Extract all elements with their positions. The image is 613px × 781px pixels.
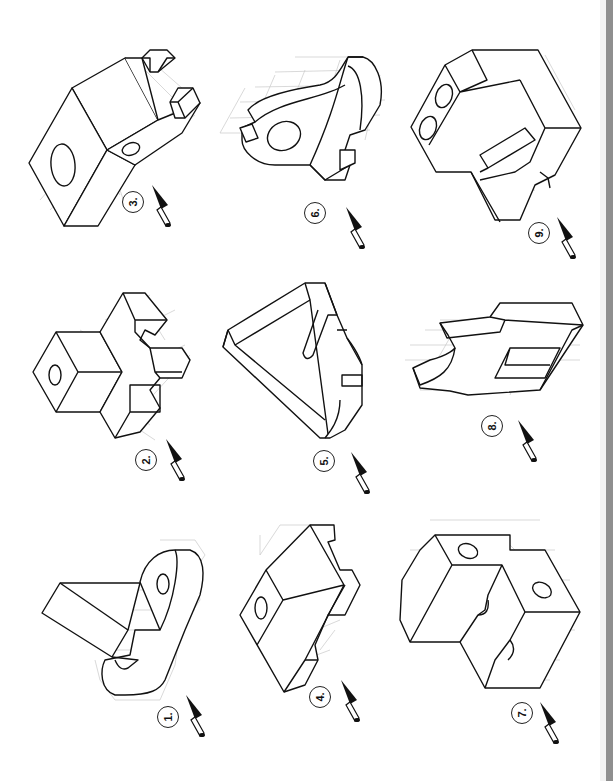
figure-1-drawing bbox=[0, 520, 210, 781]
figure-5-drawing bbox=[200, 260, 410, 520]
figure-8-number: 8. bbox=[486, 421, 498, 430]
view-direction-arrow-icon bbox=[347, 450, 377, 498]
figure-1-number: 1. bbox=[162, 712, 174, 721]
figure-6-number-badge: 6. bbox=[304, 202, 326, 224]
figure-6-number: 6. bbox=[309, 208, 321, 217]
figure-7-number: 7. bbox=[516, 708, 528, 717]
figure-6-drawing bbox=[200, 0, 410, 260]
figure-3-number: 3. bbox=[127, 197, 139, 206]
figure-3-number-badge: 3. bbox=[122, 191, 144, 213]
figure-9-number: 9. bbox=[533, 228, 545, 237]
figure-1-number-badge: 1. bbox=[157, 706, 179, 728]
view-direction-arrow-icon bbox=[342, 205, 372, 253]
view-direction-arrow-icon bbox=[553, 215, 583, 263]
figure-7-drawing bbox=[400, 520, 613, 781]
view-direction-arrow-icon bbox=[536, 700, 566, 748]
view-direction-arrow-icon bbox=[514, 418, 544, 466]
figure-7-number-badge: 7. bbox=[511, 702, 533, 724]
view-direction-arrow-icon bbox=[162, 437, 192, 485]
figure-4-drawing bbox=[200, 520, 410, 781]
figure-9-number-badge: 9. bbox=[528, 222, 550, 244]
figure-4-number-badge: 4. bbox=[309, 686, 331, 708]
figure-8-drawing bbox=[400, 260, 613, 520]
view-direction-arrow-icon bbox=[337, 678, 367, 726]
figure-5-number-badge: 5. bbox=[313, 450, 335, 472]
figure-2-number-badge: 2. bbox=[135, 449, 157, 471]
figure-3-drawing bbox=[0, 0, 210, 260]
figure-5-number: 5. bbox=[318, 456, 330, 465]
view-direction-arrow-icon bbox=[148, 183, 178, 231]
figure-2-number: 2. bbox=[140, 455, 152, 464]
figure-4-number: 4. bbox=[314, 692, 326, 701]
figure-8-number-badge: 8. bbox=[481, 415, 503, 437]
